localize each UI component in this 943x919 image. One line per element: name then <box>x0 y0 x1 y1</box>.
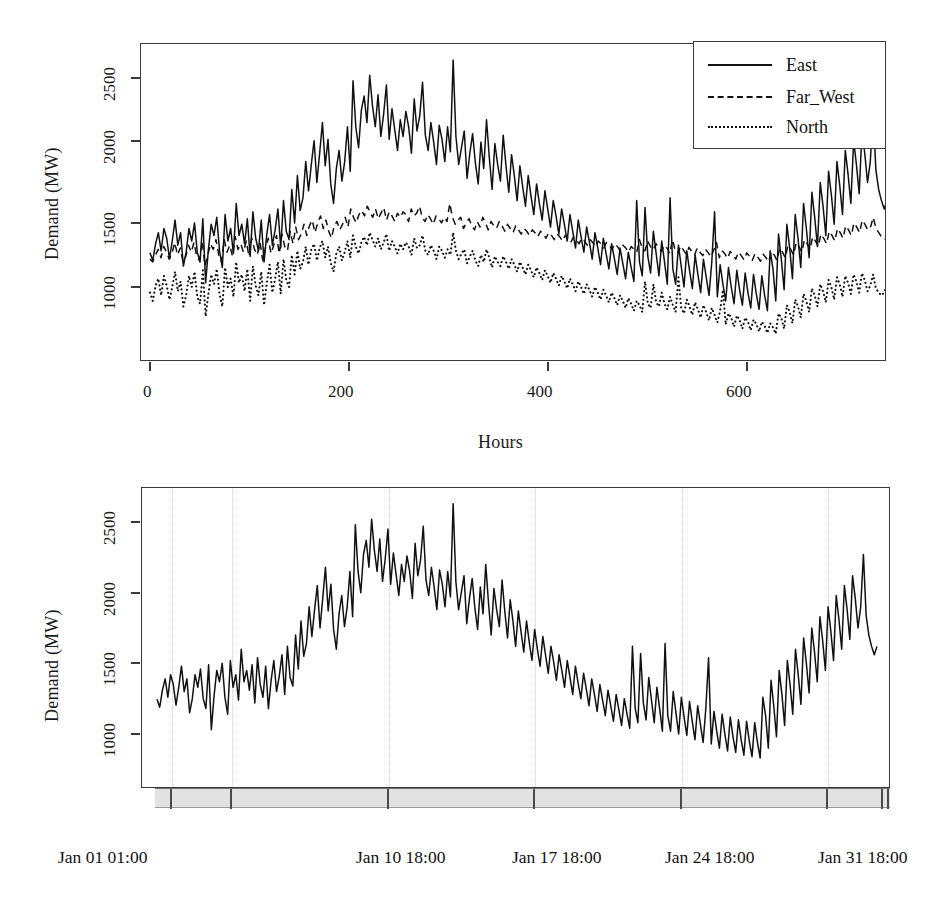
bottom-chart-panel: Demand (MW) 1000 1500 2000 2500 <box>0 462 943 919</box>
bottom-plot-area <box>141 487 890 788</box>
strip-handle-right-edge[interactable] <box>887 789 889 809</box>
strip-tickmark <box>387 789 389 809</box>
strip-tickmark <box>826 789 828 809</box>
strip-tickmark <box>533 789 535 809</box>
top-x-axis-label: Hours <box>478 432 523 453</box>
top-y-axis-label: Demand (MW) <box>42 147 63 260</box>
top-x-tickmark-400 <box>547 362 549 371</box>
strip-tickmark <box>230 789 232 809</box>
top-x-tickmark-0 <box>149 362 151 371</box>
bottom-date-tick-2: Jan 10 18:00 <box>356 847 445 868</box>
legend-entry-east: East <box>708 52 817 78</box>
top-y-tickmark-2000 <box>131 140 140 142</box>
legend-line-dashed-icon <box>708 90 772 104</box>
legend-label-north: North <box>786 117 828 138</box>
top-x-tick-200: 200 <box>328 382 354 402</box>
bottom-y-tick-1000: 1000 <box>100 723 120 757</box>
bottom-y-tickmark-2000 <box>131 592 140 594</box>
figure-root: Demand (MW) 1000 1500 2000 2500 East Far… <box>0 0 943 919</box>
top-x-tick-400: 400 <box>527 382 553 402</box>
top-y-tick-2500: 2500 <box>100 67 120 101</box>
bottom-date-tick-5: Jan 31 18:00 <box>818 847 907 868</box>
strip-handle-right[interactable] <box>881 789 883 809</box>
bottom-y-tickmark-1500 <box>131 662 140 664</box>
bottom-y-tick-1500: 1500 <box>100 652 120 686</box>
legend-entry-far-west: Far_West <box>708 84 855 110</box>
strip-tickmark <box>170 789 172 809</box>
bottom-y-tick-2500: 2500 <box>100 511 120 545</box>
bottom-y-tickmark-1000 <box>131 733 140 735</box>
bottom-series-canvas <box>142 488 890 788</box>
legend-line-solid-icon <box>708 58 772 72</box>
bottom-y-tick-2000: 2000 <box>100 582 120 616</box>
top-y-tick-2000: 2000 <box>100 130 120 164</box>
legend-label-east: East <box>786 55 817 76</box>
legend: East Far_West North <box>693 41 886 149</box>
legend-line-dotted-icon <box>708 120 772 134</box>
top-y-tickmark-2500 <box>131 77 140 79</box>
strip-tickmark <box>680 789 682 809</box>
top-x-tick-0: 0 <box>143 382 152 402</box>
top-y-tickmark-1500 <box>131 222 140 224</box>
top-y-tickmark-1000 <box>131 286 140 288</box>
legend-entry-north: North <box>708 114 828 140</box>
bottom-y-tickmark-2500 <box>131 521 140 523</box>
bottom-date-tick-1: Jan 01 01:00 <box>58 847 147 868</box>
bottom-y-axis-label: Demand (MW) <box>42 609 63 722</box>
range-selector-strip[interactable] <box>155 788 890 808</box>
top-x-tickmark-200 <box>348 362 350 371</box>
bottom-date-tick-3: Jan 17 18:00 <box>512 847 601 868</box>
top-x-tickmark-600 <box>746 362 748 371</box>
top-chart-panel: Demand (MW) 1000 1500 2000 2500 East Far… <box>0 0 943 462</box>
bottom-date-tick-4: Jan 24 18:00 <box>665 847 754 868</box>
legend-label-far-west: Far_West <box>786 87 855 108</box>
top-y-tick-1500: 1500 <box>100 212 120 246</box>
top-y-tick-1000: 1000 <box>100 276 120 310</box>
top-x-tick-600: 600 <box>726 382 752 402</box>
series-line-east <box>157 504 877 758</box>
